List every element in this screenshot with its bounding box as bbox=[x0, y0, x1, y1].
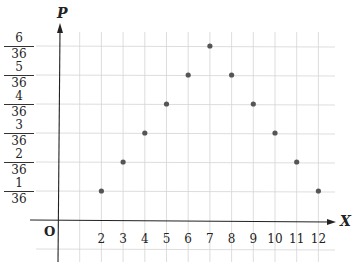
x-axis-label: X bbox=[340, 213, 351, 229]
x-tick-label: 12 bbox=[308, 232, 328, 246]
fraction-numerator: 1 bbox=[4, 177, 34, 192]
data-point bbox=[272, 130, 277, 135]
x-tick-label: 9 bbox=[243, 232, 263, 246]
x-axis-arrow-icon bbox=[327, 219, 336, 225]
data-point bbox=[121, 159, 126, 164]
x-tick-label: 6 bbox=[178, 232, 198, 246]
data-point bbox=[207, 43, 212, 48]
fraction-numerator: 3 bbox=[4, 119, 34, 134]
x-tick-label: 3 bbox=[113, 232, 133, 246]
y-axis-arrow-icon bbox=[57, 23, 63, 33]
origin-label: O bbox=[44, 224, 55, 239]
data-point bbox=[142, 130, 147, 135]
data-point bbox=[229, 72, 234, 77]
grid-lines bbox=[36, 32, 335, 262]
data-point bbox=[164, 101, 169, 106]
grid-line-horizontal bbox=[36, 46, 335, 47]
fraction-numerator: 6 bbox=[4, 32, 34, 47]
y-tick-label: 536 bbox=[4, 61, 34, 90]
fraction-numerator: 4 bbox=[4, 90, 34, 105]
grid-line-horizontal bbox=[36, 162, 335, 163]
grid-line-horizontal bbox=[36, 191, 335, 192]
grid-line-horizontal bbox=[36, 133, 335, 134]
x-axis bbox=[30, 220, 330, 222]
grid-line-horizontal bbox=[36, 75, 335, 76]
y-tick-label: 336 bbox=[4, 119, 34, 148]
x-tick-label: 7 bbox=[200, 232, 220, 246]
x-tick-label: 4 bbox=[135, 232, 155, 246]
x-tick-label: 2 bbox=[91, 232, 111, 246]
fraction-denominator: 36 bbox=[4, 163, 34, 177]
y-axis-label: P bbox=[57, 5, 68, 21]
data-point bbox=[186, 72, 191, 77]
y-tick-label: 136 bbox=[4, 177, 34, 206]
x-tick-label: 10 bbox=[265, 232, 285, 246]
fraction-numerator: 5 bbox=[4, 61, 34, 76]
data-point bbox=[316, 188, 321, 193]
y-axis bbox=[58, 30, 60, 262]
x-tick-label: 11 bbox=[287, 232, 307, 246]
fraction-denominator: 36 bbox=[4, 76, 34, 90]
y-tick-label: 636 bbox=[4, 32, 34, 61]
y-tick-label: 436 bbox=[4, 90, 34, 119]
axes bbox=[30, 23, 336, 262]
y-tick-label: 236 bbox=[4, 148, 34, 177]
grid-line-horizontal bbox=[36, 249, 335, 250]
x-tick-label: 5 bbox=[157, 232, 177, 246]
grid-line-horizontal bbox=[36, 104, 335, 105]
fraction-denominator: 36 bbox=[4, 105, 34, 119]
fraction-denominator: 36 bbox=[4, 47, 34, 61]
data-point bbox=[99, 188, 104, 193]
fraction-denominator: 36 bbox=[4, 192, 34, 206]
x-tick-label: 8 bbox=[222, 232, 242, 246]
data-point bbox=[294, 159, 299, 164]
fraction-numerator: 2 bbox=[4, 148, 34, 163]
fraction-denominator: 36 bbox=[4, 134, 34, 148]
data-point bbox=[251, 101, 256, 106]
